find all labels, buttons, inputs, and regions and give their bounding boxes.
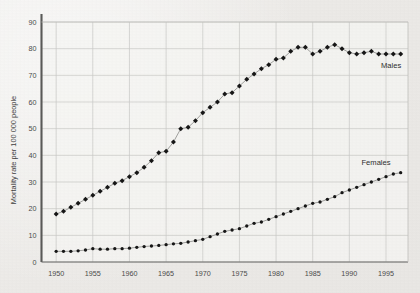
svg-text:1995: 1995 <box>378 269 394 278</box>
svg-text:0: 0 <box>33 258 37 267</box>
y-axis-tick-labels: 0102030405060708090 <box>29 18 37 267</box>
svg-text:20: 20 <box>29 204 37 213</box>
svg-text:1975: 1975 <box>231 269 247 278</box>
svg-text:30: 30 <box>29 178 37 187</box>
y-axis-title: Mortality rate per 100 000 people <box>9 96 18 204</box>
series-label-males: Males <box>381 61 401 70</box>
svg-text:60: 60 <box>29 98 37 107</box>
svg-text:40: 40 <box>29 151 37 160</box>
svg-text:1985: 1985 <box>305 269 321 278</box>
svg-text:1960: 1960 <box>121 269 137 278</box>
svg-text:1970: 1970 <box>195 269 211 278</box>
svg-text:70: 70 <box>29 71 37 80</box>
plot-background <box>42 22 409 262</box>
series-label-females: Females <box>361 158 390 167</box>
svg-text:1965: 1965 <box>158 269 174 278</box>
svg-text:80: 80 <box>29 44 37 53</box>
svg-text:1990: 1990 <box>341 269 357 278</box>
svg-text:90: 90 <box>29 18 37 27</box>
x-axis-tick-labels: 1950195519601965197019751980198519901995 <box>48 269 394 278</box>
chart-figure: 0102030405060708090 19501955196019651970… <box>0 0 420 293</box>
svg-text:1980: 1980 <box>268 269 284 278</box>
svg-text:1955: 1955 <box>85 269 101 278</box>
svg-text:50: 50 <box>29 124 37 133</box>
svg-text:10: 10 <box>29 231 37 240</box>
mortality-line-chart: 0102030405060708090 19501955196019651970… <box>0 0 420 293</box>
svg-text:1950: 1950 <box>48 269 64 278</box>
